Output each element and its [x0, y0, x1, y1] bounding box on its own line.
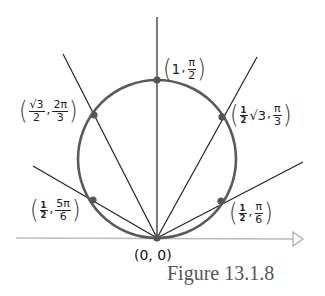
- theta-denominator: 6: [254, 214, 263, 226]
- r-denominator: 2: [239, 214, 247, 223]
- label-point-pi-over-3: ( 1 2 √3 , π 3 ): [230, 103, 292, 127]
- label-theta: π 2: [187, 57, 196, 81]
- point-pi-over-3-marker: [218, 113, 225, 120]
- point-5pi-over-6-marker: [89, 196, 96, 203]
- figure-caption: Figure 13.1.8: [167, 262, 274, 285]
- point-pi-over-2-marker: [153, 76, 160, 83]
- label-r: √3 2: [29, 99, 45, 123]
- label-r: 1: [172, 61, 181, 77]
- theta-denominator: 3: [273, 116, 282, 128]
- open-paren: (: [163, 56, 172, 81]
- close-paren: ): [264, 200, 273, 225]
- theta-denominator: 3: [56, 112, 65, 124]
- close-paren: ): [72, 197, 81, 222]
- label-theta: 5π 6: [55, 198, 71, 222]
- comma: ,: [50, 202, 54, 222]
- comma: ,: [47, 103, 51, 123]
- open-paren: (: [19, 98, 28, 123]
- comma: ,: [249, 205, 253, 225]
- origin-label: (0, 0): [134, 247, 172, 263]
- label-point-pi-over-6: ( 1 2 , π 6 ): [229, 201, 273, 225]
- theta-numerator: 2π: [52, 99, 68, 112]
- r-denominator: 2: [240, 116, 248, 125]
- point-2pi-over-3-marker: [90, 111, 97, 118]
- r-denominator: 2: [40, 211, 48, 220]
- label-theta: π 6: [254, 201, 263, 225]
- theta-numerator: π: [273, 103, 282, 116]
- label-theta: 2π 3: [52, 99, 68, 123]
- open-paren: (: [230, 102, 239, 127]
- label-point-pi-over-2: ( 1 , π 2 ): [163, 57, 206, 81]
- r-denominator: 2: [32, 112, 41, 124]
- close-paren: ): [283, 102, 292, 127]
- close-paren: ): [197, 56, 206, 81]
- theta-denominator: 6: [59, 211, 68, 223]
- theta-numerator: 5π: [55, 198, 71, 211]
- comma: ,: [182, 61, 186, 81]
- open-paren: (: [30, 197, 39, 222]
- open-paren: (: [229, 200, 238, 225]
- axis-arrowhead-icon: [293, 232, 303, 246]
- point-origin: [153, 234, 160, 241]
- r-sqrt: √3: [250, 108, 267, 123]
- label-r: 1 2: [40, 201, 48, 220]
- label-r-fraction: 1 2: [240, 106, 248, 125]
- label-point-2pi-over-3: ( √3 2 , 2π 3 ): [19, 99, 78, 123]
- label-r: 1 2: [239, 204, 247, 223]
- theta-numerator: π: [188, 57, 197, 70]
- label-point-5pi-over-6: ( 1 2 , 5π 6 ): [30, 198, 81, 222]
- comma: ,: [267, 107, 271, 127]
- label-theta: π 3: [273, 103, 282, 127]
- r-numerator: √3: [29, 99, 45, 112]
- close-paren: ): [69, 98, 78, 123]
- point-pi-over-6-marker: [217, 197, 224, 204]
- theta-numerator: π: [255, 201, 264, 214]
- theta-denominator: 2: [187, 70, 196, 82]
